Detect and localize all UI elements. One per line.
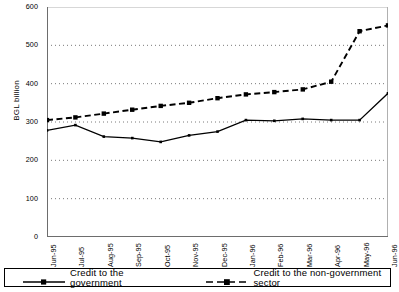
data-point-marker [47,129,48,132]
chart-plot-svg [47,7,388,237]
chart-legend: Credit to the government Credit to the n… [4,268,391,287]
x-axis-tick-label: May-96 [363,242,370,267]
x-axis-tick-label: Sep-95 [135,243,142,267]
y-axis-tick-label: 200 [8,156,38,163]
y-axis-title: BGL billion [12,55,21,147]
data-point-marker [159,141,162,144]
data-point-marker [103,135,106,138]
data-point-marker [244,92,248,96]
data-point-marker [159,104,163,108]
x-axis-tick-label: Feb-96 [277,244,284,267]
x-axis-tick-label: Nov-95 [192,243,199,267]
data-point-marker [187,101,191,105]
y-axis-tick-label: 400 [8,80,38,87]
x-axis-tick-label: Jul-95 [78,247,85,267]
data-point-marker [272,90,276,94]
data-point-marker [357,29,361,33]
x-axis-tick-label: Mar-96 [306,244,313,267]
data-point-marker [131,137,134,140]
data-point-marker [330,119,333,122]
y-axis-tick-label: 600 [8,3,38,10]
data-point-marker [358,119,361,122]
y-axis-tick-label: 500 [8,41,38,48]
data-point-marker [387,92,388,95]
data-point-marker [386,23,388,27]
x-axis-tick-label: Jan-96 [249,244,256,267]
x-axis-tick-label: Apr-96 [334,245,341,267]
y-axis-tick-label: 100 [8,195,38,202]
data-point-marker [130,108,134,112]
data-point-marker [74,124,77,127]
legend-swatch-dashed-line-icon [206,273,248,283]
data-point-marker [301,118,304,121]
data-point-marker [245,119,248,122]
data-point-marker [47,118,49,122]
legend-label-government: Credit to the government [70,268,162,287]
plot-area [47,7,388,237]
x-axis-tick-label: Dec-95 [221,243,228,267]
series-line-2 [47,25,388,120]
data-point-marker [301,87,305,91]
x-axis-tick-label: Oct-95 [164,245,171,267]
x-axis-tick-label: Jun-96 [391,244,398,267]
data-point-marker [216,130,219,133]
legend-swatch-solid-line-icon [23,273,65,283]
data-point-marker [102,111,106,115]
data-point-marker [73,115,77,119]
y-axis-tick-label: 300 [8,118,38,125]
data-point-marker [188,134,191,137]
y-axis-tick-label: 0 [8,233,38,240]
data-point-marker [329,80,333,84]
data-point-marker [273,120,276,123]
x-axis-tick-label: Jun-95 [50,244,57,267]
series-line-1 [47,93,388,142]
legend-item-government: Credit to the government [23,269,162,286]
legend-item-non-government: Credit to the non-government sector [206,269,390,286]
legend-label-non-government: Credit to the non-government sector [253,268,390,287]
x-axis-tick-label: Aug-95 [107,243,114,267]
data-point-marker [215,96,219,100]
